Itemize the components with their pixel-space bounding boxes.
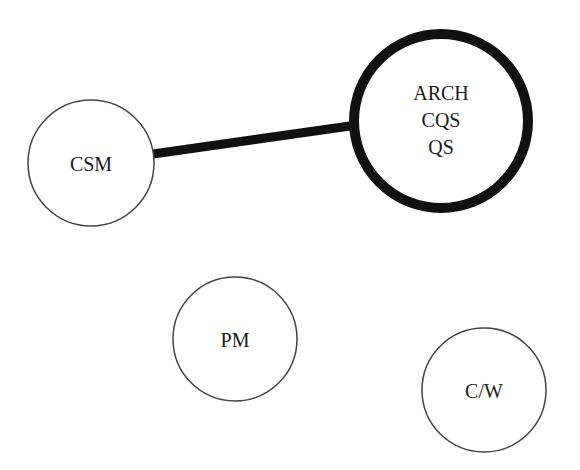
node-csm: CSM <box>28 100 154 226</box>
node-cqs-label: CQS <box>422 109 461 131</box>
node-arch-label: ARCH <box>413 82 469 104</box>
node-qs-label: QS <box>428 136 454 158</box>
edge-csm-to-arch <box>153 126 350 154</box>
relationship-diagram: CSM ARCH CQS QS PM C/W <box>0 0 580 470</box>
node-pm: PM <box>173 277 297 401</box>
node-cw-label: C/W <box>465 380 503 402</box>
node-cw: C/W <box>422 328 546 452</box>
node-csm-label: CSM <box>70 153 112 175</box>
node-arch-cqs-qs: ARCH CQS QS <box>354 34 528 208</box>
node-pm-label: PM <box>221 329 250 351</box>
